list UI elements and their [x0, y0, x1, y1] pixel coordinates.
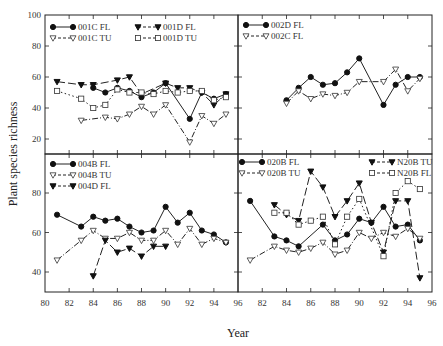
data-point — [54, 212, 59, 217]
data-point — [127, 224, 132, 229]
x-axis-title: Year — [227, 326, 249, 340]
data-point — [393, 190, 398, 195]
series-line-002d-fl — [287, 58, 420, 105]
data-point — [417, 186, 422, 191]
y-tick-label: 100 — [28, 10, 42, 20]
y-tick-label: 40 — [32, 267, 42, 277]
legend-marker — [70, 161, 75, 166]
data-point — [103, 90, 108, 95]
data-point — [187, 116, 192, 121]
data-point — [126, 246, 132, 251]
data-point — [127, 90, 132, 95]
data-point — [284, 248, 290, 253]
x-tick-label: 86 — [306, 298, 316, 308]
data-point — [405, 74, 410, 79]
data-point — [296, 244, 301, 249]
data-point — [332, 215, 338, 220]
data-point — [393, 224, 398, 229]
data-point — [139, 104, 145, 109]
data-point — [199, 114, 205, 119]
series-line-002c-fl — [287, 69, 420, 103]
data-point — [151, 112, 157, 117]
data-point — [271, 203, 277, 208]
x-tick-label: 88 — [331, 298, 341, 308]
data-point — [284, 101, 290, 106]
data-point — [78, 238, 84, 243]
data-point — [248, 198, 253, 203]
data-point — [320, 222, 325, 227]
data-point — [187, 210, 192, 215]
data-point — [345, 70, 350, 75]
data-point — [223, 95, 228, 100]
data-point — [187, 88, 192, 93]
legend-marker — [155, 35, 160, 40]
x-tick-label: 94 — [209, 298, 219, 308]
legend-label: 004B TU — [78, 170, 112, 180]
data-point — [272, 234, 277, 239]
data-point — [79, 224, 84, 229]
data-point — [54, 88, 59, 93]
data-point — [308, 74, 313, 79]
data-point — [78, 118, 84, 123]
data-point — [163, 204, 168, 209]
data-point — [405, 89, 411, 94]
series-line-001c-fl — [93, 83, 226, 119]
x-tick-label: 84 — [282, 298, 292, 308]
data-point — [368, 236, 374, 241]
data-point — [90, 274, 96, 279]
y-tick-label: 80 — [32, 41, 42, 51]
x-tick-label: 88 — [137, 298, 147, 308]
data-point — [211, 103, 217, 108]
data-point — [284, 238, 289, 243]
data-point — [296, 222, 301, 227]
y-axis-title: Plant species richness — [6, 101, 20, 206]
data-point — [163, 244, 169, 249]
x-tick-label: 96 — [234, 298, 244, 308]
data-point — [308, 218, 313, 223]
data-point — [175, 242, 181, 247]
data-point — [151, 228, 156, 233]
y-tick-label: 40 — [32, 103, 42, 113]
data-point — [175, 220, 180, 225]
legend-label: 001D FL — [163, 22, 196, 32]
x-tick-label: 96 — [428, 298, 438, 308]
legend-marker — [50, 24, 55, 29]
y-tick-label: 60 — [32, 228, 42, 238]
data-point — [54, 258, 60, 263]
y-tick-label: 80 — [32, 188, 42, 198]
legend-marker — [243, 22, 248, 27]
legend-marker — [263, 22, 268, 27]
data-point — [320, 185, 326, 190]
data-point — [114, 117, 120, 122]
legend-label: 020B TU — [267, 168, 301, 178]
x-tick-label: 82 — [258, 298, 267, 308]
data-point — [151, 91, 156, 96]
data-point — [405, 226, 411, 231]
legend-marker — [259, 159, 264, 164]
legend-marker — [369, 170, 374, 175]
x-tick-label: 90 — [161, 298, 171, 308]
data-point — [332, 252, 338, 257]
data-point — [332, 242, 337, 247]
data-point — [357, 56, 362, 61]
data-point — [308, 97, 314, 102]
x-tick-label: 90 — [355, 298, 365, 308]
data-point — [199, 242, 205, 247]
legend-label: 001C FL — [78, 22, 110, 32]
data-point — [199, 88, 204, 93]
data-point — [126, 230, 132, 235]
x-tick-label: 80 — [41, 298, 51, 308]
panel-frames — [45, 15, 432, 292]
x-tick-label: 92 — [185, 298, 194, 308]
y-tick-label: 60 — [32, 72, 42, 82]
data-point — [296, 250, 302, 255]
legend-marker — [389, 170, 394, 175]
data-point — [332, 93, 338, 98]
x-tick-label: 82 — [65, 298, 74, 308]
legend-marker — [135, 35, 140, 40]
legend-marker — [50, 161, 55, 166]
legend-label: N20B TU — [397, 157, 433, 167]
legend-label: 002C FL — [271, 31, 303, 41]
x-tick-label: 94 — [403, 298, 413, 308]
data-point — [417, 276, 423, 281]
